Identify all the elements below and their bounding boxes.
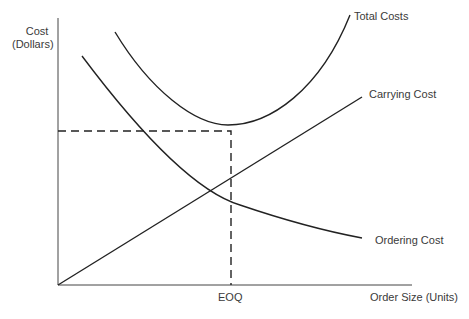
ordering-cost-label: Ordering Cost xyxy=(375,234,443,247)
eoq-tick-label: EOQ xyxy=(218,291,242,304)
total-cost-curve xyxy=(115,15,350,125)
eoq-chart xyxy=(0,0,469,319)
carrying-cost-label: Carrying Cost xyxy=(369,88,436,101)
ordering-cost-curve xyxy=(82,56,362,238)
eoq-dashed-guides xyxy=(58,131,231,285)
y-axis-label-line1: Cost xyxy=(24,25,50,38)
y-axis-label-line2: (Dollars) xyxy=(12,38,54,51)
y-axis-label: Cost xyxy=(24,25,50,38)
x-axis-label: Order Size (Units) xyxy=(370,291,458,304)
total-costs-label: Total Costs xyxy=(354,10,408,23)
